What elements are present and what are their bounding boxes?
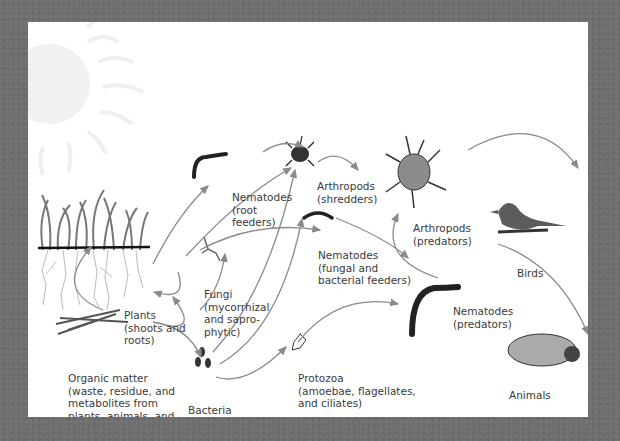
- bird-icon: [490, 203, 566, 232]
- arthropod-shredder-icon: [286, 136, 314, 166]
- nematode-root-icon: [194, 154, 226, 177]
- label-protozoa: Protozoa(amoebae, flagellates,and ciliat…: [298, 347, 416, 417]
- sun-icon: [28, 22, 143, 175]
- diagram-panel: Nematodes(rootfeeders) Arthropods(shredd…: [28, 22, 588, 417]
- label-birds: Birds: [517, 242, 543, 305]
- nematode-predator-icon: [412, 287, 458, 334]
- label-arthropods-shredders: Arthropods(shredders): [317, 155, 377, 230]
- label-arthropods-predators: Arthropods(predators): [413, 197, 472, 272]
- label-nematodes-fungal: Nematodes(fungal andbacterial feeders): [318, 224, 411, 312]
- animal-mole-icon: [508, 334, 580, 366]
- organic-matter-icon: [56, 310, 128, 334]
- label-fungi: Fungi(mycorrhizaland sapro-phytic): [204, 263, 269, 363]
- label-bacteria: Bacteria: [188, 379, 232, 417]
- label-animals: Animals: [509, 364, 551, 417]
- label-nematodes-root: Nematodes(rootfeeders): [232, 166, 292, 254]
- label-nematodes-predators: Nematodes(predators): [453, 280, 513, 355]
- fungi-icon: [202, 237, 220, 261]
- label-organic-matter: Organic matter(waste, residue, andmetabo…: [68, 347, 175, 417]
